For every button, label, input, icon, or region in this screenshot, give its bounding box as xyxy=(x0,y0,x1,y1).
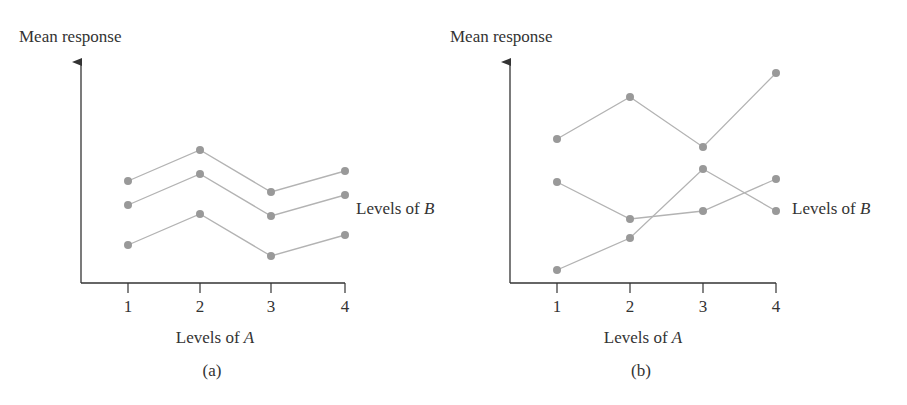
series-line-3 xyxy=(128,214,345,256)
data-point-marker xyxy=(626,215,634,223)
data-point-marker xyxy=(267,188,275,196)
data-point-marker xyxy=(124,201,132,209)
data-point-marker xyxy=(124,241,132,249)
data-point-marker xyxy=(553,135,561,143)
data-point-marker xyxy=(699,165,707,173)
data-point-marker xyxy=(772,175,780,183)
tick-label-1: 1 xyxy=(124,297,133,316)
series-legend-text: Levels of xyxy=(792,199,860,218)
x-axis-label-text: Levels of xyxy=(176,328,244,347)
data-point-marker xyxy=(553,178,561,186)
series-lines xyxy=(124,146,349,260)
series-legend-label: Levels of B xyxy=(792,199,871,218)
tick-label-3: 3 xyxy=(699,297,708,316)
data-point-marker xyxy=(772,69,780,77)
x-axis-label: Levels of A xyxy=(176,328,255,347)
data-point-marker xyxy=(553,266,561,274)
series-lines xyxy=(553,69,780,274)
series-legend-factor: B xyxy=(860,199,871,218)
series-line-3 xyxy=(557,169,776,270)
y-axis-label: Mean response xyxy=(19,27,121,46)
data-point-marker xyxy=(267,252,275,260)
x-axis-label-factor: A xyxy=(671,328,683,347)
data-point-marker xyxy=(196,170,204,178)
panel-label: (a) xyxy=(203,361,222,380)
data-point-marker xyxy=(626,93,634,101)
x-axis-tick-labels: 1 2 3 4 xyxy=(124,297,350,316)
x-axis-tick-labels: 1 2 3 4 xyxy=(553,297,781,316)
x-axis-label-factor: A xyxy=(243,328,255,347)
x-axis-ticks xyxy=(128,283,345,293)
data-point-marker xyxy=(341,191,349,199)
data-point-marker xyxy=(124,177,132,185)
panel-label: (b) xyxy=(631,361,651,380)
series-legend-text: Levels of xyxy=(356,199,424,218)
data-point-marker xyxy=(341,167,349,175)
data-point-marker xyxy=(699,143,707,151)
tick-label-4: 4 xyxy=(341,297,350,316)
data-point-marker xyxy=(772,207,780,215)
x-axis-label: Levels of A xyxy=(604,328,683,347)
tick-label-1: 1 xyxy=(553,297,562,316)
data-point-marker xyxy=(341,231,349,239)
interaction-plots-figure: Mean response 1 2 3 4 Levels of A (a) Le… xyxy=(0,0,907,405)
tick-label-4: 4 xyxy=(772,297,781,316)
panel-b-interaction: Mean response 1 2 3 4 Levels of A (b) Le… xyxy=(450,27,871,380)
x-axis-ticks xyxy=(557,283,776,293)
data-point-marker xyxy=(267,212,275,220)
data-point-marker xyxy=(196,210,204,218)
data-point-marker xyxy=(626,234,634,242)
tick-label-2: 2 xyxy=(196,297,205,316)
series-line-1 xyxy=(128,150,345,192)
tick-label-3: 3 xyxy=(267,297,276,316)
series-legend-label: Levels of B xyxy=(356,199,435,218)
data-point-marker xyxy=(196,146,204,154)
y-axis-label: Mean response xyxy=(450,27,552,46)
series-legend-factor: B xyxy=(424,199,435,218)
tick-label-2: 2 xyxy=(626,297,635,316)
series-line-2 xyxy=(557,179,776,219)
series-line-1 xyxy=(557,73,776,147)
x-axis-label-text: Levels of xyxy=(604,328,672,347)
data-point-marker xyxy=(699,207,707,215)
panel-a-no-interaction: Mean response 1 2 3 4 Levels of A (a) Le… xyxy=(19,27,435,380)
